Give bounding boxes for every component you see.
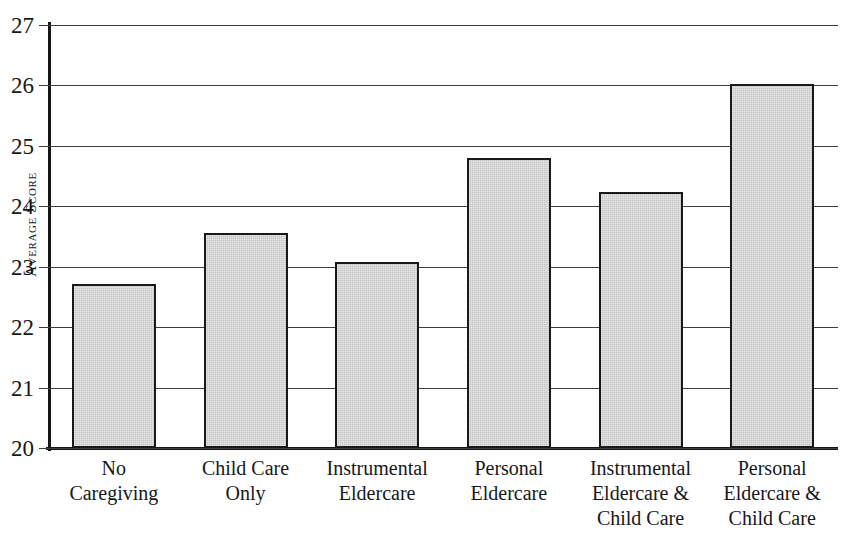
x-axis-category-label-line: Eldercare & — [706, 481, 838, 506]
bar — [335, 262, 419, 448]
y-axis-tick-label: 26 — [11, 74, 34, 97]
y-axis-tick-label: 20 — [11, 437, 34, 460]
x-axis-category-label-line: Child Care — [180, 456, 312, 481]
y-axis-tick — [39, 25, 48, 26]
y-axis-tick — [39, 388, 48, 389]
bar — [730, 84, 814, 448]
x-axis-category-label: Child CareOnly — [180, 456, 312, 506]
bar — [72, 284, 156, 448]
gridline — [48, 267, 838, 268]
x-axis-category-label-line: Eldercare — [443, 481, 575, 506]
plot-area: 2726252423222120 — [48, 25, 838, 448]
x-axis-category-label-line: Instrumental — [311, 456, 443, 481]
y-axis-tick — [39, 85, 48, 86]
x-axis-category-label-line: Instrumental — [575, 456, 707, 481]
gridline — [48, 327, 838, 328]
x-axis-category-label-line: Personal — [706, 456, 838, 481]
y-axis-tick — [39, 146, 48, 147]
x-axis-category-label: InstrumentalEldercare &Child Care — [575, 456, 707, 531]
gridline — [48, 146, 838, 147]
gridline — [48, 206, 838, 207]
gridline — [48, 25, 838, 26]
x-axis-category-label: PersonalEldercare — [443, 456, 575, 506]
y-axis-tick-label: 25 — [11, 134, 34, 157]
x-axis-category-label-line: Personal — [443, 456, 575, 481]
gridline — [48, 85, 838, 86]
x-axis-category-label-line: Eldercare & — [575, 481, 707, 506]
y-axis-tick-label: 24 — [11, 195, 34, 218]
gridline — [48, 388, 838, 389]
bar — [204, 233, 288, 448]
y-axis-tick — [39, 327, 48, 328]
bar — [467, 158, 551, 448]
x-axis-category-label-line: Child Care — [706, 506, 838, 531]
y-axis-tick — [39, 448, 48, 449]
bar-chart: Average Score 2726252423222120 NoCaregiv… — [0, 0, 858, 540]
y-axis-tick-label: 22 — [11, 316, 34, 339]
y-axis-tick-label: 27 — [11, 14, 34, 37]
y-axis-tick — [39, 267, 48, 268]
x-axis-category-label-line: No — [48, 456, 180, 481]
x-axis-category-label: InstrumentalEldercare — [311, 456, 443, 506]
x-axis-category-label: NoCaregiving — [48, 456, 180, 506]
x-axis-category-label-line: Child Care — [575, 506, 707, 531]
gridline — [48, 448, 838, 449]
y-axis-tick — [39, 206, 48, 207]
x-axis-category-label-line: Caregiving — [48, 481, 180, 506]
y-axis-tick-label: 21 — [11, 376, 34, 399]
y-axis-tick-label: 23 — [11, 255, 34, 278]
x-axis-category-label-line: Only — [180, 481, 312, 506]
x-axis-category-label-line: Eldercare — [311, 481, 443, 506]
bar — [599, 192, 683, 448]
x-axis-category-label: PersonalEldercare &Child Care — [706, 456, 838, 531]
